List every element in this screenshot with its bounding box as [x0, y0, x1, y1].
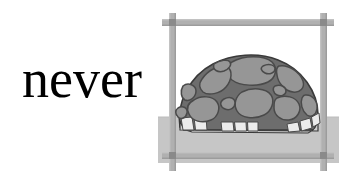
tortoise-shell — [176, 55, 320, 133]
frame-left-post — [169, 13, 176, 171]
vocabulary-word: never — [22, 48, 162, 110]
tortoise-illustration — [150, 0, 347, 184]
frame-bottom-rail — [162, 152, 334, 159]
frame-top-rail — [162, 19, 334, 26]
frame-right-post — [320, 13, 327, 171]
flashcard: never — [0, 0, 347, 184]
